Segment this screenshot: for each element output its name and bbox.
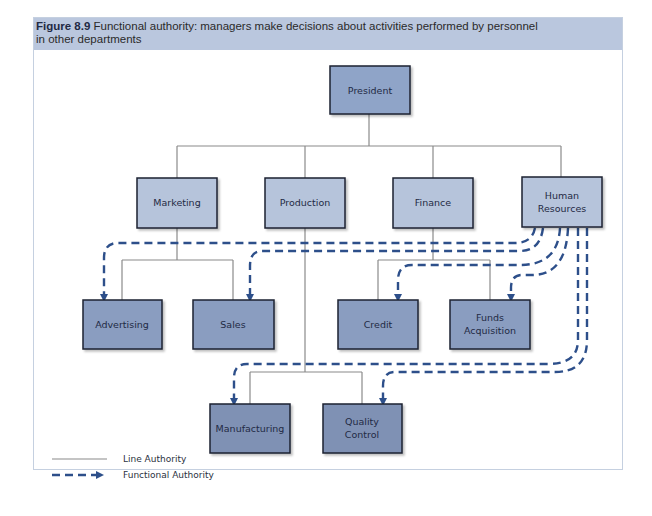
- label-finance: Finance: [415, 197, 451, 208]
- legend-functional-authority-label: Functional Authority: [123, 470, 214, 480]
- functional-hr-to-sales: [250, 228, 543, 298]
- label-president: President: [348, 85, 393, 96]
- label-sales: Sales: [220, 319, 245, 330]
- org-chart: President Marketing Production Finance H…: [0, 0, 652, 516]
- functional-hr-to-advertising: [104, 228, 535, 298]
- label-funds-line1: Funds: [476, 312, 504, 323]
- label-quality-line1: Quality: [345, 416, 379, 427]
- label-quality-line2: Control: [345, 429, 379, 440]
- label-funds-line2: Acquisition: [464, 325, 516, 336]
- functional-hr-to-credit: [398, 228, 560, 298]
- label-hr-line2: Resources: [538, 203, 587, 214]
- label-marketing: Marketing: [153, 197, 200, 208]
- label-production: Production: [280, 197, 331, 208]
- legend-line-authority-label: Line Authority: [123, 454, 187, 464]
- box-labels: President Marketing Production Finance H…: [95, 85, 586, 440]
- label-manufacturing: Manufacturing: [216, 423, 285, 434]
- label-advertising: Advertising: [95, 319, 149, 330]
- functional-hr-to-funds: [511, 228, 568, 298]
- legend: Line Authority Functional Authority: [52, 454, 214, 480]
- label-hr-line1: Human: [545, 190, 579, 201]
- label-credit: Credit: [364, 319, 393, 330]
- line-authority-connectors: [122, 114, 561, 404]
- box-human-resources[interactable]: [522, 177, 602, 227]
